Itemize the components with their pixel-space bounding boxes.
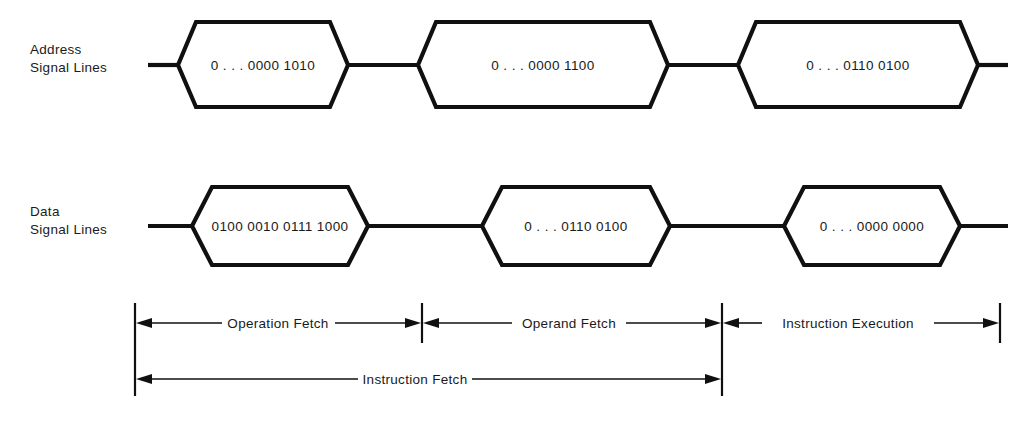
data-bus-value-3: 0 . . . 0000 0000 xyxy=(820,219,924,234)
instruction-fetch-arrowhead-left xyxy=(136,374,152,384)
address-bus-value-3: 0 . . . 0110 0100 xyxy=(806,58,909,73)
data-row-label-line2: Signal Lines xyxy=(30,222,107,237)
operand-fetch-arrowhead-left xyxy=(423,318,439,328)
phase-label-instruction-execution: Instruction Execution xyxy=(782,316,914,331)
phase-bar-lower: Instruction Fetch xyxy=(136,372,721,387)
phase-segment-operation-fetch: Operation Fetch xyxy=(136,316,421,331)
address-bus-value-1: 0 . . . 0000 1010 xyxy=(211,58,315,73)
data-bus-value-1: 0100 0010 0111 1000 xyxy=(212,219,349,234)
phase-label-operation-fetch: Operation Fetch xyxy=(227,316,328,331)
phase-label-operand-fetch: Operand Fetch xyxy=(522,316,616,331)
instruction-fetch-arrowhead-right xyxy=(705,374,721,384)
phase-segment-instruction-execution: Instruction Execution xyxy=(723,316,999,331)
address-row: Address Signal Lines 0 . . . 0000 1010 0… xyxy=(30,22,1008,107)
address-row-label-line1: Address xyxy=(30,42,82,57)
phase-bar-upper: Operation Fetch Operand Fetch Instructio… xyxy=(136,316,999,331)
data-row-label-line1: Data xyxy=(30,204,60,219)
instruction-execution-arrowhead-right xyxy=(983,318,999,328)
timing-diagram-canvas: Address Signal Lines 0 . . . 0000 1010 0… xyxy=(0,0,1036,425)
address-row-label-line2: Signal Lines xyxy=(30,60,107,75)
operation-fetch-arrowhead-left xyxy=(136,318,152,328)
data-bus-value-2: 0 . . . 0110 0100 xyxy=(524,219,627,234)
instruction-execution-arrowhead-left xyxy=(723,318,739,328)
data-row: Data Signal Lines 0100 0010 0111 1000 0 … xyxy=(30,187,1008,265)
phase-segment-instruction-fetch: Instruction Fetch xyxy=(136,372,721,387)
phase-segment-operand-fetch: Operand Fetch xyxy=(423,316,721,331)
timing-diagram: Address Signal Lines 0 . . . 0000 1010 0… xyxy=(0,0,1036,425)
operation-fetch-arrowhead-right xyxy=(405,318,421,328)
address-bus-value-2: 0 . . . 0000 1100 xyxy=(491,58,594,73)
operand-fetch-arrowhead-right xyxy=(705,318,721,328)
phase-label-instruction-fetch: Instruction Fetch xyxy=(363,372,468,387)
